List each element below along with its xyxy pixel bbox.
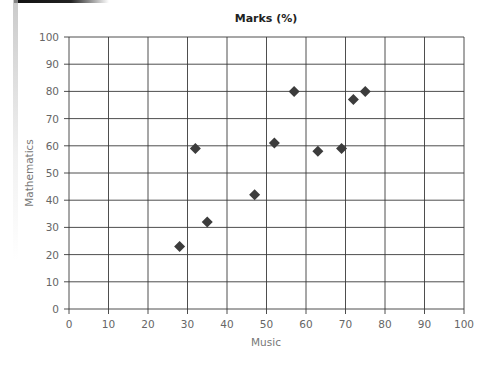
y-tick-label: 90: [46, 58, 59, 70]
y-tick-label: 50: [46, 167, 59, 179]
y-tick-label: 10: [46, 276, 59, 288]
y-tick-label: 60: [46, 140, 59, 152]
y-tick-label: 80: [46, 85, 59, 97]
y-axis-ticks: 0102030405060708090100: [39, 31, 59, 315]
data-point-diamond: [289, 86, 300, 97]
data-point-diamond: [360, 86, 371, 97]
x-axis-label: Music: [251, 336, 281, 348]
grid-lines: [64, 37, 464, 314]
scatter-chart: Marks (%) 0102030405060708090100 0102030…: [0, 0, 484, 366]
data-point-diamond: [190, 143, 201, 154]
data-point-diamond: [312, 146, 323, 157]
data-point-diamond: [269, 138, 280, 149]
x-tick-label: 10: [102, 318, 115, 330]
y-tick-label: 0: [52, 303, 59, 315]
data-point-diamond: [348, 94, 359, 105]
x-tick-label: 40: [220, 318, 233, 330]
x-tick-label: 90: [418, 318, 431, 330]
x-tick-label: 60: [299, 318, 312, 330]
x-tick-label: 20: [141, 318, 154, 330]
x-tick-label: 80: [378, 318, 391, 330]
y-tick-label: 30: [46, 221, 59, 233]
x-tick-label: 50: [260, 318, 273, 330]
data-point-diamond: [174, 241, 185, 252]
x-tick-label: 30: [181, 318, 194, 330]
x-tick-label: 0: [66, 318, 73, 330]
x-tick-label: 70: [339, 318, 352, 330]
data-point-diamond: [249, 189, 260, 200]
y-tick-label: 20: [46, 249, 59, 261]
y-axis-label: Mathematics: [23, 139, 35, 207]
x-axis-ticks: 0102030405060708090100: [66, 318, 474, 330]
y-tick-label: 40: [46, 194, 59, 206]
data-point-diamond: [202, 216, 213, 227]
y-tick-label: 70: [46, 113, 59, 125]
x-tick-label: 100: [454, 318, 474, 330]
chart-title: Marks (%): [235, 12, 298, 25]
y-tick-label: 100: [39, 31, 59, 43]
